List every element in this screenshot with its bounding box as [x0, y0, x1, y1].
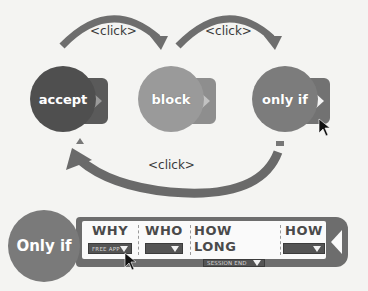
block-label: block [138, 66, 204, 132]
how-long-header: HOW LONG [194, 223, 274, 255]
mouse-cursor-icon [124, 252, 140, 272]
dropdown-arrow-icon [120, 246, 128, 252]
transition-label: <click> [205, 24, 252, 38]
how-header: HOW [285, 223, 323, 239]
dropdown-arrow-icon [253, 260, 261, 266]
only-if-condition-bar: WHY FREE APP WHO HOW LONG SESSION END HO… [76, 217, 348, 267]
how-long-column: HOW LONG SESSION END [194, 221, 274, 259]
how-column: HOW [284, 221, 324, 259]
collapse-arrow-icon[interactable] [331, 230, 342, 254]
block-button[interactable]: block [138, 66, 206, 134]
only-if-button[interactable]: only if [252, 66, 320, 134]
how-long-dropdown[interactable]: SESSION END [203, 259, 265, 267]
only-if-label: only if [252, 66, 318, 132]
who-column: WHO [144, 221, 184, 259]
divider [190, 225, 191, 255]
accept-label: accept [30, 66, 96, 132]
who-header: WHO [145, 223, 183, 239]
transition-label: <click> [148, 158, 195, 172]
mouse-cursor-icon [318, 118, 334, 138]
dropdown-arrow-icon [313, 246, 321, 252]
arrowhead-icon [150, 36, 168, 50]
only-if-badge: Only if [8, 210, 80, 282]
why-header: WHY [92, 223, 128, 239]
arrowhead-icon [264, 36, 282, 50]
accept-button[interactable]: accept [30, 66, 98, 134]
dropdown-arrow-icon [171, 246, 179, 252]
divider [138, 225, 139, 255]
transition-label: <click> [90, 24, 137, 38]
how-dropdown[interactable] [283, 243, 325, 254]
divider [280, 225, 281, 255]
who-dropdown[interactable] [145, 243, 183, 254]
